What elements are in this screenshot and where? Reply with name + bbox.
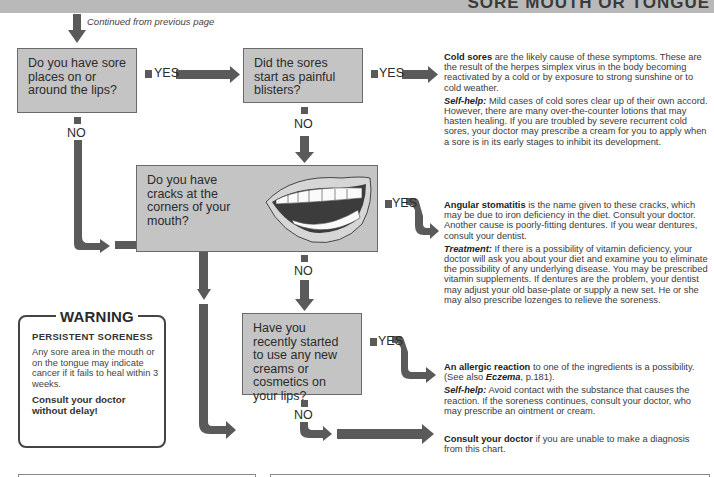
question-text: Do you have cracks at the corners of you… <box>147 174 247 228</box>
warning-box: WARNING PERSISTENT SORENESS Any sore are… <box>18 315 166 448</box>
open-mouth-illustration <box>262 172 377 247</box>
question-text: Have you recently started to use any new… <box>253 322 351 403</box>
outcome-heading: An allergic reaction <box>444 362 530 372</box>
no-label[interactable]: NO <box>294 264 313 278</box>
yes-label[interactable]: YES <box>154 66 179 80</box>
advice-label: Self-help: <box>444 96 486 106</box>
outcome-allergic-reaction: An allergic reaction to one of the ingre… <box>444 362 710 419</box>
yes-label[interactable]: YES <box>378 334 403 348</box>
advice-label: Treatment: <box>444 244 492 254</box>
outcome-cold-sores: Cold sores are the likely cause of these… <box>444 52 710 150</box>
no-label[interactable]: NO <box>294 117 313 131</box>
yes-label[interactable]: YES <box>392 196 417 210</box>
entry-arrow <box>73 14 81 32</box>
question-box-new-cosmetics: Have you recently started to use any new… <box>242 313 362 395</box>
cross-reference-page: , p.181). <box>521 372 555 382</box>
no-label[interactable]: NO <box>294 408 313 422</box>
warning-subtitle: PERSISTENT SORENESS <box>32 331 159 342</box>
no-label[interactable]: NO <box>67 126 86 140</box>
advice-label: Self-help: <box>444 385 486 395</box>
outcome-heading: Consult your doctor <box>444 434 533 444</box>
question-box-painful-blisters: Did the sores start as painful blisters? <box>243 48 363 103</box>
outcome-heading: Angular stomatitis <box>444 200 526 210</box>
question-text: Did the sores start as painful blisters? <box>254 57 352 98</box>
warning-cta: Consult your doctor without delay! <box>32 394 159 416</box>
outcome-heading: Cold sores <box>444 52 492 62</box>
outcome-consult-doctor: Consult your doctor if you are unable to… <box>444 434 710 457</box>
yes-label[interactable]: YES <box>379 66 404 80</box>
cross-reference-link[interactable]: Eczema <box>486 372 521 382</box>
question-box-sore-lips: Do you have sore places on or around the… <box>17 48 137 113</box>
question-text: Do you have sore places on or around the… <box>28 57 126 98</box>
warning-body: Any sore area in the mouth or on the ton… <box>32 347 159 389</box>
warning-title: WARNING <box>56 308 138 325</box>
question-box-mouth-cracks: Do you have cracks at the corners of you… <box>136 165 378 252</box>
outcome-angular-stomatitis: Angular stomatitis is the name given to … <box>444 200 710 308</box>
